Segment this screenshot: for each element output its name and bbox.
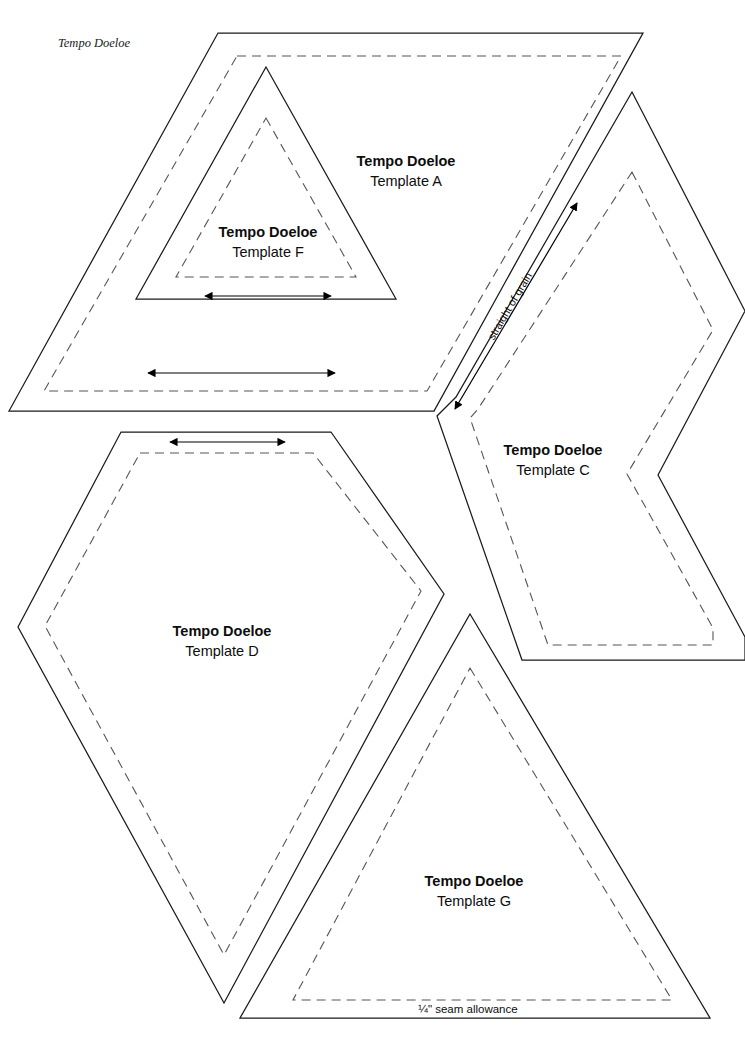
seam-allowance-note: ¼" seam allowance [418,1003,517,1015]
template-c-name-label: Template C [516,462,589,478]
template-c-group[interactable]: straight of grain Tempo Doeloe Template … [437,92,745,660]
quilt-template-canvas: Tempo Doeloe Tempo Doeloe Template A Tem… [0,0,745,1039]
template-d-name-label: Template D [185,643,258,659]
template-d-group[interactable]: Tempo Doeloe Template D [18,432,444,1003]
template-a-seam-line [44,56,621,391]
template-g-seam-line [293,668,672,1000]
template-d-cut-line [18,432,444,1003]
template-f-group[interactable]: Tempo Doeloe Template F [136,67,396,299]
template-g-cut-line [240,614,710,1018]
template-a-name-label: Template A [370,173,442,189]
template-a-group[interactable]: Tempo Doeloe Template A [9,33,643,411]
template-c-seam-line [470,172,713,645]
template-a-brand-label: Tempo Doeloe [357,153,456,169]
template-g-group[interactable]: Tempo Doeloe Template G ¼" seam allowanc… [240,614,710,1018]
template-d-seam-line [45,453,421,955]
template-sheet: Tempo Doeloe Tempo Doeloe Template A Tem… [0,0,745,1039]
template-f-name-label: Template F [232,244,304,260]
template-f-cut-line [136,67,396,299]
template-g-name-label: Template G [437,893,511,909]
template-a-cut-line [9,33,643,411]
template-f-brand-label: Tempo Doeloe [219,224,318,240]
template-c-brand-label: Tempo Doeloe [504,442,603,458]
template-c-cut-line [437,92,745,660]
page-header-label: Tempo Doeloe [58,36,131,50]
template-d-brand-label: Tempo Doeloe [173,623,272,639]
template-g-brand-label: Tempo Doeloe [425,873,524,889]
